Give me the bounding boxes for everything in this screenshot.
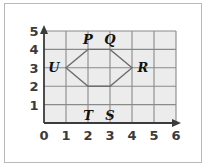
vertex-label-s: S [105, 108, 114, 123]
x-tick-label-5: 5 [149, 128, 158, 143]
y-tick-label-4: 4 [29, 42, 38, 57]
vertex-label-t: T [83, 108, 94, 123]
y-tick-label-1: 1 [29, 98, 38, 113]
figure-frame: 5 4 3 2 1 0 1 2 3 4 5 6 P Q R S T U [0, 0, 207, 168]
vertex-label-q: Q [104, 32, 116, 47]
vertex-label-r: R [137, 60, 149, 75]
y-tick-label-5: 5 [29, 24, 38, 39]
x-tick-label-6: 6 [171, 128, 180, 143]
x-tick-label-2: 2 [83, 128, 92, 143]
vertex-label-u: U [48, 60, 60, 75]
y-axis-arrow [40, 25, 48, 34]
x-tick-label-3: 3 [105, 128, 114, 143]
x-tick-label-4: 4 [127, 128, 136, 143]
coordinate-plane: 5 4 3 2 1 0 1 2 3 4 5 6 P Q R S T U [0, 0, 207, 168]
x-tick-label-0: 0 [39, 128, 48, 143]
y-tick-label-2: 2 [29, 79, 38, 94]
vertex-label-p: P [82, 32, 94, 47]
x-tick-label-1: 1 [61, 128, 70, 143]
y-tick-label-3: 3 [29, 61, 38, 76]
